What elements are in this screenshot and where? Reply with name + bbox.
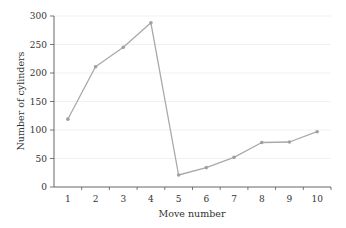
data-point-marker	[205, 166, 209, 170]
y-tick-label: 300	[30, 11, 47, 21]
y-tick-label: 150	[30, 97, 47, 107]
data-point-marker	[66, 117, 70, 121]
y-axis-ticks: 050100150200250300	[30, 11, 54, 192]
x-tick-label: 7	[231, 194, 237, 204]
y-tick-label: 0	[41, 182, 47, 192]
x-tick-label: 1	[65, 194, 71, 204]
y-tick-label: 200	[30, 68, 47, 78]
data-point-marker	[232, 156, 236, 160]
x-tick-label: 2	[93, 194, 99, 204]
x-tick-label: 8	[259, 194, 265, 204]
data-point-marker	[315, 130, 319, 134]
data-point-marker	[149, 21, 153, 25]
data-point-marker	[94, 65, 98, 69]
line-chart: 050100150200250300 12345678910 Move numb…	[0, 0, 346, 228]
x-axis-ticks: 12345678910	[65, 187, 331, 204]
x-tick-label: 6	[203, 194, 209, 204]
data-point-marker	[121, 46, 125, 50]
y-tick-label: 50	[36, 154, 48, 164]
data-point-marker	[288, 140, 292, 144]
y-tick-label: 100	[30, 125, 47, 135]
x-axis-title: Move number	[159, 208, 226, 219]
y-tick-label: 250	[30, 40, 47, 50]
x-tick-label: 3	[120, 194, 126, 204]
x-tick-label: 5	[176, 194, 182, 204]
data-point-marker	[260, 141, 264, 145]
x-tick-label: 9	[287, 194, 293, 204]
series-line	[68, 23, 317, 175]
data-point-marker	[177, 173, 181, 177]
x-tick-label: 10	[311, 194, 323, 204]
gridlines	[54, 16, 331, 159]
x-tick-label: 4	[148, 194, 154, 204]
y-axis-title: Number of cylinders	[15, 51, 26, 150]
